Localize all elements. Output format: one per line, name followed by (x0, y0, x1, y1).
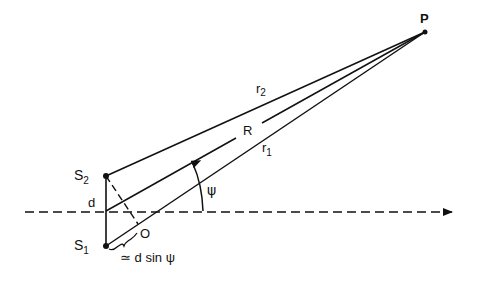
label-r2: r2 (256, 81, 266, 98)
label-R: R (243, 123, 252, 138)
label-r1: r1 (262, 140, 272, 158)
label-S2: S2 (74, 167, 89, 186)
label-O: O (140, 226, 150, 241)
point-P-dot (423, 30, 428, 35)
R-line-upper (262, 32, 425, 123)
source-S2-dot (103, 173, 109, 179)
label-P: P (420, 11, 429, 26)
perpendicular-dashed-line (106, 176, 138, 224)
label-psi: ψ (207, 182, 216, 198)
R-line-lower (106, 138, 236, 211)
label-path-difference: ≃ d sin ψ (120, 250, 175, 265)
label-d: d (88, 195, 95, 210)
source-S1-dot (103, 243, 109, 249)
interference-diagram: P S2 S1 d O r2 R r1 ψ ≃ d sin ψ (0, 0, 478, 283)
r1-line (106, 32, 425, 246)
label-S1: S1 (74, 237, 89, 256)
